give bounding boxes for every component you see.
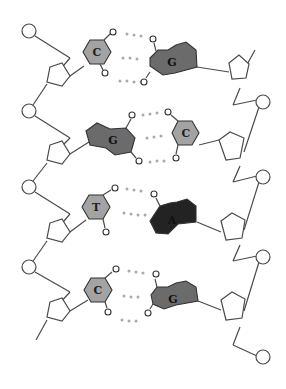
bond	[103, 219, 105, 228]
atom-o	[105, 309, 111, 315]
backbone-link	[244, 262, 259, 311]
bond	[100, 64, 103, 70]
bond	[150, 304, 153, 309]
base-label: T	[92, 201, 101, 214]
atom-o	[113, 266, 119, 272]
base-label: G	[108, 134, 117, 147]
backbone-link	[233, 345, 257, 356]
base-pair-4: C G	[70, 266, 221, 323]
backbone-link	[33, 84, 47, 105]
atom-o	[103, 229, 109, 235]
atom-o	[136, 158, 142, 164]
sugar-pentagon	[47, 141, 70, 164]
backbone-link	[233, 245, 240, 261]
phosphate-circle	[22, 260, 36, 274]
backbone-link	[233, 100, 257, 105]
backbone-link	[244, 107, 259, 152]
backbone-link	[244, 182, 259, 230]
left-backbone	[22, 24, 70, 340]
atom-o	[145, 310, 151, 316]
atom-o	[129, 112, 135, 118]
glycosidic-bond	[70, 142, 89, 154]
base-label: C	[93, 46, 102, 59]
sugar-pentagon	[229, 55, 249, 79]
atom-o	[151, 191, 157, 197]
bond	[156, 198, 160, 206]
bond	[171, 115, 178, 121]
backbone-link	[233, 256, 257, 261]
base-label: C	[94, 284, 103, 297]
base-pair-3: T A	[70, 185, 221, 235]
phosphate-circle	[256, 95, 270, 109]
atom-o	[153, 271, 159, 277]
bond	[154, 43, 156, 51]
sugar-pentagon	[221, 213, 245, 240]
glycosidic-bond	[198, 301, 221, 310]
sugar-pentagon	[47, 219, 70, 242]
glycosidic-bond	[197, 67, 229, 72]
sugar-pentagon	[47, 298, 70, 321]
glycosidic-bond	[70, 220, 86, 232]
glycosidic-bond	[70, 300, 88, 311]
base-pair-2: G C	[70, 109, 219, 164]
backbone-link	[35, 36, 70, 58]
hydrogen-bonds	[142, 112, 166, 164]
bond	[146, 72, 150, 78]
atom-o	[150, 36, 156, 42]
bond	[104, 34, 110, 40]
hydrogen-bonds	[121, 270, 145, 323]
atom-o	[102, 70, 108, 76]
backbone-link	[33, 241, 47, 261]
backbone-link	[233, 166, 240, 182]
sugar-pentagon	[47, 63, 70, 86]
phosphate-circle	[256, 250, 270, 264]
atom-o	[173, 155, 179, 161]
glycosidic-bond	[199, 140, 219, 145]
phosphate-circle	[256, 350, 270, 364]
bond	[105, 302, 107, 308]
right-backbone	[219, 50, 270, 364]
phosphate-circle	[22, 24, 36, 38]
base-label: G	[168, 293, 177, 306]
backbone-link	[35, 192, 70, 214]
bond	[105, 272, 112, 278]
dna-diagram: C G G	[0, 0, 286, 389]
bond	[103, 190, 111, 195]
sugar-pentagon	[219, 132, 244, 160]
atom-o	[112, 185, 118, 191]
atom-o	[110, 29, 116, 35]
glycosidic-bond	[70, 66, 84, 76]
backbone-link	[233, 176, 257, 182]
backbone-link	[233, 327, 240, 345]
sugar-pentagon	[221, 292, 245, 320]
phosphate-circle	[256, 170, 270, 184]
base-pair-1: C G	[70, 29, 229, 85]
hydrogen-bonds	[123, 188, 147, 217]
glycosidic-bond	[197, 222, 221, 232]
base-label: G	[167, 56, 176, 69]
phosphate-circle	[22, 104, 36, 118]
atom-o	[141, 79, 147, 85]
bond	[155, 279, 157, 287]
base-label: A	[167, 214, 177, 227]
hydrogen-bonds	[119, 33, 143, 84]
bond	[176, 145, 178, 154]
backbone-link	[233, 88, 240, 105]
bond	[126, 119, 131, 128]
backbone-link	[33, 163, 47, 181]
bond	[131, 152, 136, 158]
backbone-tail	[36, 320, 47, 340]
backbone-link	[35, 116, 70, 138]
base-label: C	[182, 127, 191, 140]
phosphate-circle	[22, 180, 36, 194]
backbone-link	[35, 272, 70, 292]
atom-o	[165, 109, 171, 115]
